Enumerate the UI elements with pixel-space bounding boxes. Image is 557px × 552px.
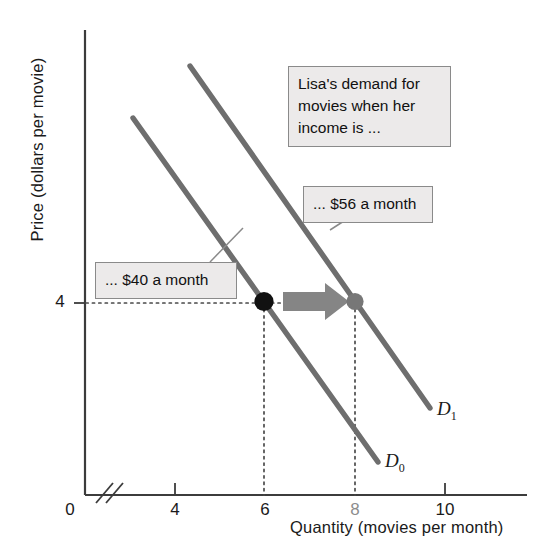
x-tick-label-4: 4 bbox=[160, 500, 190, 520]
callout-income-40: ... $40 a month bbox=[95, 262, 237, 299]
axis-break-icon bbox=[96, 483, 123, 503]
curve-label-d1: D1 bbox=[437, 398, 457, 424]
shift-arrow bbox=[283, 283, 349, 320]
curve-label-d0-letter: D bbox=[385, 450, 399, 471]
x-axis-title: Quantity (movies per month) bbox=[290, 518, 504, 537]
callout-income-56: ... $56 a month bbox=[303, 186, 433, 223]
x-tick-label-8: 8 bbox=[340, 500, 370, 520]
chart-figure: Price (dollars per movie) Quantity (movi… bbox=[0, 0, 557, 552]
y-axis-title: Price (dollars per movie) bbox=[28, 35, 47, 265]
y-tick-label-4: 4 bbox=[45, 292, 75, 312]
x-tick-label-10: 10 bbox=[430, 500, 460, 520]
guide-lines bbox=[86, 303, 355, 495]
curve-label-d0: D0 bbox=[385, 450, 405, 476]
marker-old-point bbox=[254, 292, 273, 311]
x-tick-label-6: 6 bbox=[250, 500, 280, 520]
curve-label-d0-subscript: 0 bbox=[399, 461, 405, 475]
x-axis-ticks bbox=[175, 483, 445, 495]
origin-label: 0 bbox=[55, 500, 85, 520]
curve-label-d1-subscript: 1 bbox=[451, 409, 457, 423]
marker-new-point bbox=[346, 293, 363, 310]
callout-main-description: Lisa's demand for movies when her income… bbox=[288, 66, 451, 147]
curve-label-d1-letter: D bbox=[437, 398, 451, 419]
chart-canvas bbox=[0, 0, 557, 552]
